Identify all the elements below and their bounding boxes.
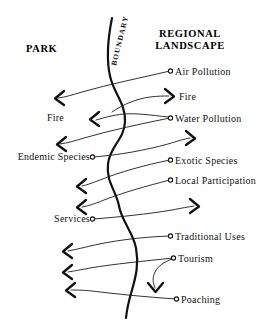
label-tourism: Tourism <box>178 253 213 264</box>
node-dot-services <box>90 217 94 221</box>
node-dot-water-pollution <box>168 116 172 120</box>
zone-title-regional-line1: REGIONAL <box>159 28 221 39</box>
label-local-participation: Local Participation <box>175 175 256 186</box>
label-air-pollution: Air Pollution <box>175 66 231 77</box>
zone-title-regional-line2: LANDSCAPE <box>155 40 225 51</box>
flow-services-outflow <box>90 199 199 221</box>
flow-exotic-species-inflow <box>77 158 173 193</box>
diagram-canvas: PARK REGIONAL LANDSCAPE BOUNDARY <box>0 0 278 325</box>
boundary-label-group: BOUNDARY <box>109 15 130 67</box>
label-exotic-species: Exotic Species <box>175 155 238 166</box>
node-dot-endemic-species <box>90 155 94 159</box>
park-regional-landscape-flow-diagram: PARK REGIONAL LANDSCAPE BOUNDARY <box>0 0 278 325</box>
flow-fire-inflow <box>90 112 168 126</box>
zone-title-park: PARK <box>26 43 58 54</box>
flow-fire-outflow <box>112 89 174 112</box>
node-dot-exotic-species <box>168 158 172 162</box>
label-poaching: Poaching <box>181 294 220 305</box>
label-water-pollution: Water Pollution <box>175 113 242 124</box>
flow-traditional-uses-inflow <box>63 234 173 258</box>
node-dot-local-participation <box>168 178 172 182</box>
label-fire-right: Fire <box>179 91 196 102</box>
boundary-label: BOUNDARY <box>109 15 130 67</box>
flow-tourism-downflow <box>148 259 172 292</box>
node-dot-poaching <box>174 297 178 301</box>
label-traditional-uses: Traditional Uses <box>175 231 245 242</box>
node-dot-traditional-uses <box>168 234 172 238</box>
node-dot-air-pollution <box>168 69 172 73</box>
label-fire-left: Fire <box>47 112 64 123</box>
label-endemic-species: Endemic Species <box>18 151 90 162</box>
node-dot-tourism <box>171 256 175 260</box>
label-services: Services <box>54 213 90 224</box>
